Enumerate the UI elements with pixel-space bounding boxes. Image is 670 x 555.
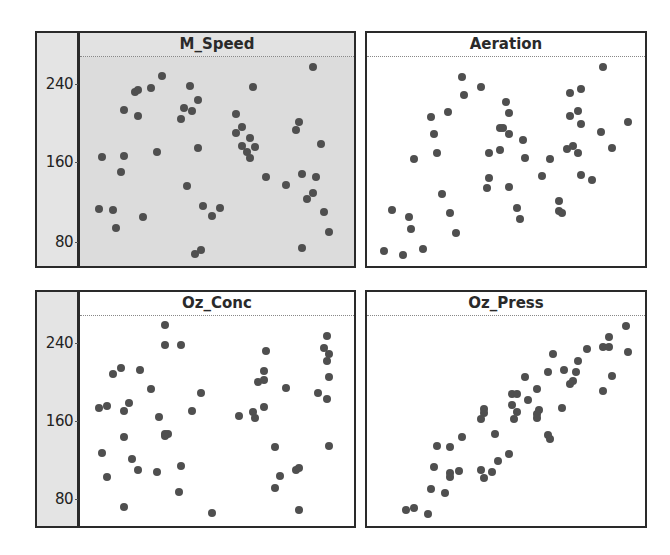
data-point [303, 195, 311, 203]
data-point [441, 489, 449, 497]
data-point [538, 172, 546, 180]
data-point [505, 450, 513, 458]
data-point [485, 174, 493, 182]
data-point [208, 509, 216, 517]
data-point [516, 215, 524, 223]
data-point [153, 148, 161, 156]
data-point [566, 380, 574, 388]
y-tick-240: 240 [46, 334, 73, 352]
data-point [455, 467, 463, 475]
y-tick-240: 240 [46, 75, 73, 93]
panel-title: Oz_Press [367, 292, 645, 316]
data-point [147, 385, 155, 393]
data-point [460, 91, 468, 99]
data-point [483, 184, 491, 192]
panel-m-speed[interactable]: M_Speed [78, 31, 356, 268]
data-point [533, 385, 541, 393]
data-point [577, 85, 585, 93]
data-point [388, 206, 396, 214]
data-point [298, 244, 306, 252]
scatter-plot-area [80, 316, 354, 526]
data-point [519, 136, 527, 144]
data-point [175, 488, 183, 496]
data-point [599, 387, 607, 395]
data-point [188, 107, 196, 115]
data-point [458, 73, 466, 81]
data-point [546, 435, 554, 443]
data-point [608, 144, 616, 152]
data-point [566, 89, 574, 97]
data-point [502, 98, 510, 106]
data-point [325, 373, 333, 381]
data-point [430, 130, 438, 138]
data-point [298, 170, 306, 178]
data-point [427, 485, 435, 493]
data-point [260, 376, 268, 384]
data-point [95, 404, 103, 412]
panel-title: Oz_Conc [80, 292, 354, 316]
data-point [161, 432, 169, 440]
y-axis-row-2: 240 160 80 [35, 290, 79, 528]
data-point [325, 442, 333, 450]
data-point [560, 366, 568, 374]
data-point [558, 404, 566, 412]
data-point [128, 455, 136, 463]
data-point [246, 154, 254, 162]
data-point [407, 225, 415, 233]
panel-oz-press[interactable]: Oz_Press [365, 290, 647, 528]
data-point [505, 130, 513, 138]
data-point [533, 414, 541, 422]
data-point [194, 96, 202, 104]
data-point [624, 348, 632, 356]
data-point [494, 457, 502, 465]
data-point [597, 128, 605, 136]
data-point [323, 395, 331, 403]
data-point [271, 484, 279, 492]
data-point [103, 402, 111, 410]
data-point [599, 63, 607, 71]
data-point [424, 510, 432, 518]
panel-title: M_Speed [80, 33, 354, 57]
data-point [260, 367, 268, 375]
data-point [574, 149, 582, 157]
data-point [232, 129, 240, 137]
data-point [271, 443, 279, 451]
data-point [452, 229, 460, 237]
data-point [180, 104, 188, 112]
data-point [446, 209, 454, 217]
data-point [544, 368, 552, 376]
data-point [496, 146, 504, 154]
data-point [134, 86, 142, 94]
data-point [588, 176, 596, 184]
data-point [410, 504, 418, 512]
data-point [262, 173, 270, 181]
data-point [444, 108, 452, 116]
data-point [186, 82, 194, 90]
data-point [427, 113, 435, 121]
scatter-plot-area [367, 316, 645, 526]
data-point [312, 173, 320, 181]
data-point [458, 433, 466, 441]
data-point [433, 442, 441, 450]
data-point [488, 468, 496, 476]
data-point [109, 206, 117, 214]
data-point [480, 474, 488, 482]
data-point [624, 118, 632, 126]
data-point [260, 403, 268, 411]
data-point [158, 72, 166, 80]
data-point [109, 370, 117, 378]
data-point [117, 168, 125, 176]
data-point [249, 83, 257, 91]
y-tick-80: 80 [55, 233, 73, 251]
data-point [98, 153, 106, 161]
data-point [232, 110, 240, 118]
data-point [139, 213, 147, 221]
data-point [513, 390, 521, 398]
data-point [183, 182, 191, 190]
panel-oz-conc[interactable]: Oz_Conc [78, 290, 356, 528]
data-point [282, 181, 290, 189]
y-axis-row-1: 240 160 80 [35, 31, 79, 268]
data-point [216, 204, 224, 212]
panel-aeration[interactable]: Aeration [365, 31, 647, 268]
data-point [117, 364, 125, 372]
